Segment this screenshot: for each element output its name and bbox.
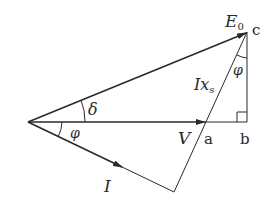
c-label: c: [252, 21, 260, 39]
delta-arc: [81, 100, 85, 122]
delta-label: δ: [88, 100, 98, 119]
i-phasor-tail: [120, 166, 174, 192]
b-label: b: [240, 130, 250, 148]
phi-arc-c: [237, 55, 247, 58]
e0-phasor: [28, 33, 246, 122]
e0-label: E0: [224, 11, 244, 32]
ixs-label: Ixs: [193, 75, 214, 95]
phi-label-origin: φ: [70, 125, 80, 141]
i-label: I: [103, 176, 111, 196]
phi-arc-origin: [58, 122, 62, 137]
ixs-line: [174, 32, 247, 192]
a-label: a: [204, 130, 213, 148]
phi-label-c: φ: [233, 62, 243, 78]
v-label: V: [178, 128, 192, 148]
phasor-diagram: E0 c Ixs φ δ φ V a b I: [0, 0, 275, 202]
right-angle-marker: [237, 112, 247, 122]
